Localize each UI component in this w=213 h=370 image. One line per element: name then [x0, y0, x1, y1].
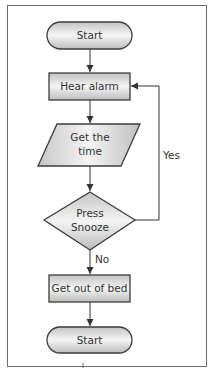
connector-snooze-yes-loop: [131, 86, 159, 220]
get-time-label-line2: time: [50, 145, 130, 158]
no-edge-label: No: [95, 253, 109, 266]
get-out-of-bed-label: Get out of bed: [49, 275, 130, 302]
start-top-label: Start: [47, 22, 132, 49]
start-bottom-label: Start: [47, 327, 132, 353]
hear-alarm-label: Hear alarm: [49, 73, 130, 100]
press-snooze-label-line2: Snooze: [50, 221, 130, 234]
flowchart-canvas: [0, 0, 213, 370]
yes-edge-label: Yes: [163, 149, 180, 162]
press-snooze-label-line1: Press: [50, 207, 130, 220]
get-time-label-line1: Get the: [50, 131, 130, 144]
